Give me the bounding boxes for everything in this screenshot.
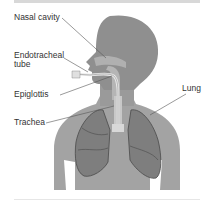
label-lung: Lung — [182, 83, 201, 93]
bottom-border-line — [14, 199, 200, 200]
label-endotracheal-tube-line2: tube — [14, 59, 31, 69]
tube-connector — [72, 71, 80, 78]
label-epiglottis: Epiglottis — [14, 89, 49, 99]
leader-lung — [150, 94, 186, 115]
respiratory-intubation-illustration — [0, 0, 212, 202]
leader-endotracheal-tube — [64, 58, 88, 72]
label-trachea: Trachea — [14, 117, 45, 127]
label-nasal-cavity: Nasal cavity — [14, 12, 60, 22]
head — [86, 15, 158, 90]
